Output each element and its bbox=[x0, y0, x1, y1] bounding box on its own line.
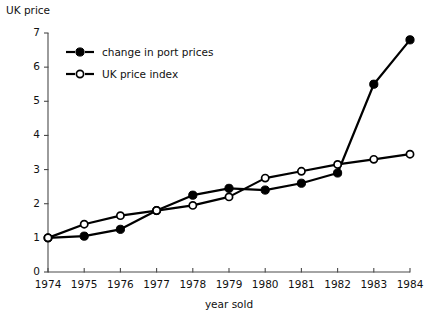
data-point bbox=[80, 232, 88, 240]
x-tick-label: 1984 bbox=[397, 278, 424, 290]
y-tick-label: 6 bbox=[33, 60, 40, 72]
y-tick-label: 7 bbox=[33, 26, 40, 38]
data-point bbox=[297, 179, 305, 187]
y-tick-label: 5 bbox=[33, 94, 40, 106]
y-tick-label: 4 bbox=[33, 128, 40, 140]
data-point bbox=[189, 202, 196, 209]
y-tick-label: 1 bbox=[33, 231, 40, 243]
legend-label: UK price index bbox=[102, 68, 178, 80]
data-point bbox=[370, 156, 377, 163]
data-point bbox=[81, 221, 88, 228]
x-axis: 1974197519761977197819791980198119821983… bbox=[35, 268, 424, 290]
x-tick-label: 1980 bbox=[252, 278, 279, 290]
data-point bbox=[334, 161, 341, 168]
legend-marker bbox=[76, 70, 83, 77]
x-tick-label: 1974 bbox=[35, 278, 62, 290]
x-tick-label: 1979 bbox=[216, 278, 243, 290]
x-axis-title: year sold bbox=[205, 298, 253, 310]
data-point bbox=[370, 80, 378, 88]
y-tick-label: 0 bbox=[33, 265, 40, 277]
x-tick-label: 1976 bbox=[107, 278, 134, 290]
chart-canvas: UK price year sold 01234567 197419751976… bbox=[0, 0, 429, 319]
legend: change in port pricesUK price index bbox=[66, 46, 213, 80]
data-point bbox=[406, 36, 414, 44]
data-point bbox=[261, 186, 269, 194]
series-group bbox=[44, 36, 414, 242]
data-point bbox=[334, 169, 342, 177]
x-tick-label: 1981 bbox=[288, 278, 315, 290]
legend-marker bbox=[76, 48, 84, 56]
data-point bbox=[298, 168, 305, 175]
x-tick-label: 1978 bbox=[179, 278, 206, 290]
data-point bbox=[225, 184, 233, 192]
x-tick-label: 1982 bbox=[324, 278, 351, 290]
data-point bbox=[117, 212, 124, 219]
y-tick-label: 2 bbox=[33, 197, 40, 209]
data-point bbox=[262, 175, 269, 182]
x-tick-label: 1977 bbox=[143, 278, 170, 290]
x-tick-label: 1975 bbox=[71, 278, 98, 290]
x-axis-title-group: year sold bbox=[205, 298, 253, 310]
data-point bbox=[189, 191, 197, 199]
data-point bbox=[116, 225, 124, 233]
data-point bbox=[44, 234, 51, 241]
y-tick-label: 3 bbox=[33, 163, 40, 175]
y-axis-title: UK price bbox=[6, 4, 50, 16]
data-point bbox=[153, 207, 160, 214]
x-tick-label: 1983 bbox=[360, 278, 387, 290]
line-chart: UK price year sold 01234567 197419751976… bbox=[0, 0, 429, 319]
data-point bbox=[406, 151, 413, 158]
data-point bbox=[225, 193, 232, 200]
y-axis-title-group: UK price bbox=[6, 4, 50, 16]
legend-label: change in port prices bbox=[102, 46, 213, 58]
